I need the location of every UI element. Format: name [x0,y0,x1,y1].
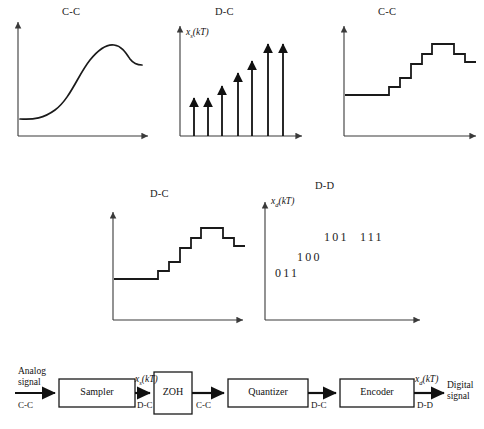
figure-vector-layer [0,0,484,429]
analog-signal-curve [20,45,142,119]
code-word-111: 111 [360,230,384,245]
plot-analog-title: C-C [62,6,80,17]
output-signal-caption-line1: Digital [447,380,473,391]
plot-encoded [265,202,420,320]
signal-label-xd-arg: (kT) [422,374,438,384]
plot-zoh [344,26,476,136]
code-word-011: 011 [275,266,299,281]
signal-label-xd: xd(kT) [415,374,438,386]
code-word-100: 100 [297,250,322,265]
plot-encoded-title: D-D [315,180,334,191]
block-quantizer-label[interactable]: Quantizer [228,386,308,397]
plot-quantized [113,212,245,320]
code-word-101: 101 [324,230,349,245]
type-label-sampler-dc: D-C [137,400,153,410]
output-signal-caption: Digital signal [447,380,473,402]
type-label-quantizer-dc: D-C [311,400,327,410]
type-label-input-cc: C-C [18,400,33,410]
type-label-encoder-dd: D-D [417,400,433,410]
block-sampler-label[interactable]: Sampler [59,386,135,397]
block-zoh-label[interactable]: ZOH [154,386,192,397]
input-signal-caption-line2: signal [18,377,46,388]
type-label-zoh-cc: C-C [196,400,211,410]
figure-canvas: C-C D-C C-C D-C D-D xs(kT) xd(kT) 011 10… [0,0,484,429]
quantized-staircase-trace [114,228,245,279]
signal-label-xs-arg: (kT) [142,374,158,384]
plot-sampled-y-label-arg: (kT) [193,27,209,37]
plot-encoded-y-label: xd(kT) [271,196,294,208]
plot-sampled [180,26,302,136]
zoh-staircase-trace [345,44,476,95]
plot-encoded-y-label-arg: (kT) [278,196,294,206]
input-signal-caption: Analog signal [18,366,46,388]
plot-analog [18,22,148,136]
plot-sampled-y-label: xs(kT) [186,27,209,39]
plot-zoh-title: C-C [378,6,396,17]
output-signal-caption-line2: signal [447,391,473,402]
signal-label-xs: xs(kT) [135,374,158,386]
plot-quantized-title: D-C [150,188,169,199]
plot-sampled-title: D-C [215,6,234,17]
input-signal-caption-line1: Analog [18,366,46,377]
block-encoder-label[interactable]: Encoder [340,386,414,397]
impulse-train [194,44,283,136]
